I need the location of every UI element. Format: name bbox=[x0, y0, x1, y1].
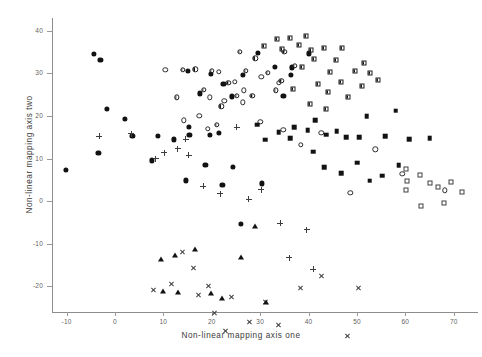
data-point-half-filled-circle bbox=[174, 95, 179, 100]
data-point-cross bbox=[195, 292, 201, 298]
data-point-filled-triangle bbox=[238, 254, 244, 259]
data-point-half-filled-square bbox=[280, 46, 285, 51]
data-point-open-square bbox=[405, 178, 410, 183]
data-point-open-circle bbox=[241, 88, 246, 93]
data-point-filled-circle bbox=[203, 162, 208, 167]
data-point-filled-circle bbox=[207, 133, 212, 138]
data-point-open-circle bbox=[205, 126, 210, 131]
data-point-open-circle bbox=[196, 113, 201, 118]
data-point-filled-triangle bbox=[192, 246, 198, 251]
data-point-plus bbox=[310, 266, 316, 272]
data-point-half-filled-circle bbox=[250, 93, 255, 98]
data-point-half-filled-square bbox=[376, 78, 381, 83]
data-point-half-filled-square bbox=[303, 33, 308, 38]
data-point-filled-square bbox=[393, 109, 398, 114]
data-point-half-filled-square bbox=[288, 36, 293, 41]
data-point-open-square bbox=[417, 172, 422, 177]
data-point-filled-circle bbox=[187, 133, 192, 138]
data-point-half-filled-square bbox=[359, 84, 364, 89]
data-point-filled-triangle bbox=[219, 296, 225, 301]
x-tick-label: 40 bbox=[296, 318, 322, 325]
data-point-filled-square bbox=[357, 135, 362, 140]
x-tick-label: 50 bbox=[344, 318, 370, 325]
data-point-plus bbox=[153, 156, 159, 162]
data-point-open-square bbox=[459, 189, 464, 194]
data-point-filled-square bbox=[324, 132, 329, 137]
data-point-filled-circle bbox=[171, 137, 176, 142]
data-point-half-filled-circle bbox=[193, 66, 198, 71]
data-point-plus bbox=[217, 191, 223, 197]
data-point-filled-square bbox=[288, 136, 293, 141]
data-point-plus bbox=[277, 220, 283, 226]
data-point-open-square bbox=[427, 181, 432, 186]
data-point-filled-circle bbox=[238, 222, 243, 227]
y-tick-mark bbox=[47, 244, 52, 245]
data-point-plus bbox=[234, 124, 240, 130]
data-point-half-filled-square bbox=[296, 43, 301, 48]
data-point-filled-circle bbox=[185, 68, 190, 73]
data-point-filled-square bbox=[305, 128, 310, 133]
data-point-open-circle bbox=[181, 118, 186, 123]
x-tick-label: 70 bbox=[441, 318, 467, 325]
data-point-half-filled-square bbox=[346, 95, 351, 100]
y-tick-mark bbox=[47, 73, 52, 74]
x-tick-mark bbox=[67, 312, 68, 316]
data-point-filled-triangle bbox=[158, 257, 164, 262]
data-point-open-circle bbox=[216, 69, 221, 74]
data-point-half-filled-circle bbox=[292, 63, 297, 68]
y-axis-label: Non-linear mapping axis two bbox=[25, 55, 34, 255]
data-point-filled-circle bbox=[130, 133, 135, 138]
data-point-half-filled-circle bbox=[201, 87, 206, 92]
x-tick-label: 30 bbox=[247, 318, 273, 325]
y-tick-mark bbox=[47, 116, 52, 117]
data-point-filled-circle bbox=[98, 58, 103, 63]
y-tick-mark bbox=[47, 159, 52, 160]
data-point-open-square bbox=[404, 188, 409, 193]
data-point-open-square bbox=[448, 180, 453, 185]
data-point-half-filled-square bbox=[307, 102, 312, 107]
data-point-open-circle bbox=[232, 79, 237, 84]
x-tick-label: 10 bbox=[150, 318, 176, 325]
data-point-cross bbox=[262, 299, 268, 305]
data-point-open-circle bbox=[442, 187, 447, 192]
data-point-filled-circle bbox=[105, 106, 110, 111]
data-point-cross bbox=[168, 281, 174, 287]
data-point-half-filled-square bbox=[340, 46, 345, 51]
data-point-filled-circle bbox=[272, 64, 277, 69]
data-point-open-circle bbox=[207, 95, 212, 100]
data-point-open-circle bbox=[258, 74, 263, 79]
data-point-half-filled-circle bbox=[243, 68, 248, 73]
data-point-half-filled-square bbox=[325, 90, 330, 95]
data-point-half-filled-circle bbox=[253, 56, 258, 61]
data-point-half-filled-square bbox=[262, 44, 267, 49]
data-point-half-filled-circle bbox=[219, 103, 224, 108]
y-tick-mark bbox=[47, 286, 52, 287]
data-point-plus bbox=[258, 187, 264, 193]
data-point-filled-square bbox=[339, 171, 344, 176]
data-point-plus bbox=[200, 183, 206, 189]
data-point-half-filled-square bbox=[353, 69, 358, 74]
data-point-half-filled-circle bbox=[273, 88, 278, 93]
data-point-filled-triangle bbox=[263, 299, 269, 304]
data-point-half-filled-square bbox=[274, 37, 279, 42]
data-point-half-filled-square bbox=[322, 45, 327, 50]
data-point-open-square bbox=[436, 184, 441, 189]
data-point-filled-triangle bbox=[252, 223, 258, 228]
x-tick-mark bbox=[357, 312, 358, 316]
data-point-filled-square bbox=[334, 129, 339, 134]
data-point-filled-square bbox=[396, 163, 401, 168]
data-point-cross bbox=[180, 249, 186, 255]
data-point-cross bbox=[206, 283, 212, 289]
data-point-cross bbox=[276, 322, 282, 328]
x-tick-mark bbox=[405, 312, 406, 316]
data-point-filled-circle bbox=[290, 65, 295, 70]
x-tick-label: 20 bbox=[199, 318, 225, 325]
data-point-cross bbox=[355, 285, 361, 291]
data-point-filled-circle bbox=[122, 116, 127, 121]
x-axis-label: Non-linear mapping axis one bbox=[0, 331, 482, 340]
data-point-plus bbox=[96, 133, 102, 139]
data-point-filled-square bbox=[355, 161, 360, 166]
data-point-open-circle bbox=[318, 130, 323, 135]
data-point-open-circle bbox=[240, 100, 245, 105]
data-points-layer bbox=[0, 0, 482, 238]
